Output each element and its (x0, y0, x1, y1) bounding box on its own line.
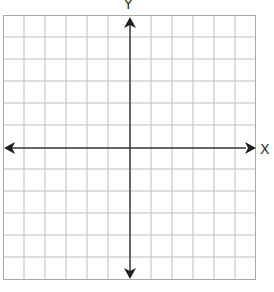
y-axis-label: Y (124, 0, 133, 11)
coordinate-grid (0, 0, 274, 292)
x-axis-right-arrow-icon (245, 142, 256, 154)
x-axis-label: X (260, 142, 270, 156)
grid-lines (3, 15, 255, 279)
